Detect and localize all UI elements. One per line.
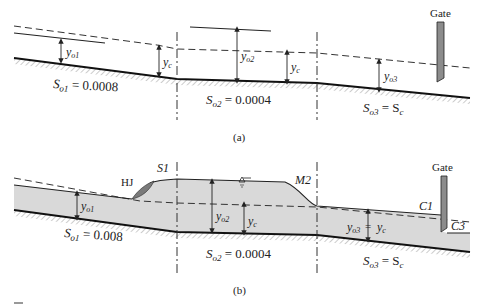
hj-label: HJ [121,176,134,188]
slope-label-reach2-b: So2 = 0.0004 [206,246,272,263]
yo3-label-a: yo3 [383,69,397,84]
gradually-varied-flow-figure: Gate yo1 yc yo2 yc yo3 So1 = 0.0008 So2 … [0,0,484,307]
gate-label-b: Gate [432,161,453,173]
corner-mark [14,302,23,304]
gate-b [441,176,447,232]
slope-label-reach3-b: So3 = Sc [363,253,404,270]
yc-label-a-1: yc [162,55,172,70]
yo1-label-a: yo1 [65,45,79,60]
c1-profile-label: C1 [419,199,433,213]
figure-b: Gate HJ S1 M2 C1 C3 yo1 yo2 yc yo3 = yc … [14,161,470,297]
c3-profile-label: C3 [451,219,465,233]
gate-a [437,22,444,82]
yc-label-a-2: yc [290,60,300,75]
caption-b: (b) [233,284,246,297]
slope-label-reach1-b: So1 = 0.008 [64,225,124,246]
slope-label-reach2-a: So2 = 0.0004 [206,92,272,109]
gate-label-a: Gate [430,7,451,19]
slope-label-reach1-a: So1 = 0.0008 [53,76,119,96]
equals-sign-b: = [365,220,371,232]
s1-profile-label: S1 [157,161,169,175]
figure-a: Gate yo1 yc yo2 yc yo3 So1 = 0.0008 So2 … [14,7,470,144]
normal-depth-line-reach1 [14,33,105,43]
caption-a: (a) [233,131,246,144]
normal-depth-line-reach2 [190,27,271,31]
m2-profile-label: M2 [294,173,311,187]
slope-label-reach3-a: So3 = Sc [363,100,404,117]
